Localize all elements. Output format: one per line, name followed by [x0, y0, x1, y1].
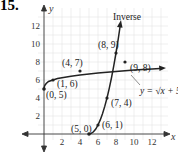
label-5-0: (5, 0)	[71, 124, 92, 135]
y-tick-6: 6	[36, 75, 41, 85]
y-tick-8: 8	[36, 57, 41, 67]
label-4-7: (4, 7)	[62, 58, 83, 69]
x-tick-2: 2	[60, 137, 65, 147]
graph: y x 2 4 6 8 10 12 2 4 6 8 10 12 (0, 5) (…	[0, 0, 178, 157]
y-tick-12: 12	[31, 21, 40, 31]
point-4-7	[78, 69, 81, 72]
y-tick-10: 10	[31, 39, 41, 49]
x-axis-label: x	[170, 131, 176, 142]
x-tick-4: 4	[78, 137, 83, 147]
x-tick-8: 8	[114, 137, 119, 147]
x-tick-12: 12	[148, 137, 157, 147]
y-tick-4: 4	[36, 93, 41, 103]
x-tick-10: 10	[130, 137, 140, 147]
label-6-1: (6, 1)	[102, 120, 123, 131]
label-8-9: (8, 9)	[98, 40, 119, 51]
y-tick-2: 2	[36, 111, 41, 121]
point-7-4	[105, 96, 108, 99]
equation-label: y = √x + 5	[139, 86, 178, 96]
y-axis-label: y	[48, 3, 54, 14]
inverse-label: Inverse	[113, 12, 141, 22]
point-6-1	[96, 123, 99, 126]
label-1-6: (1, 6)	[57, 79, 78, 90]
label-7-4: (7, 4)	[111, 98, 132, 109]
label-9-8: (9, 8)	[130, 63, 151, 74]
x-tick-6: 6	[96, 137, 101, 147]
point-9-8	[123, 60, 126, 63]
label-0-5: (0, 5)	[46, 90, 67, 101]
point-8-9	[114, 51, 117, 54]
point-1-6	[51, 78, 54, 81]
axes	[22, 5, 170, 152]
sqrt-arrow-icon	[159, 66, 166, 72]
